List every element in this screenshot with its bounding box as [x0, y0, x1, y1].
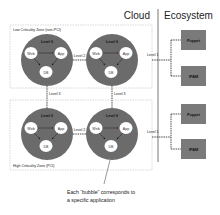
service-puppet: Puppet — [181, 30, 206, 50]
ecosystem-title: Ecosystem — [164, 10, 213, 21]
svg-text:Puppet: Puppet — [187, 113, 201, 117]
svg-text:Web: Web — [92, 127, 99, 131]
app-bubble: Level 0 Web App DB — [86, 108, 138, 160]
architecture-diagram: Cloud Ecosystem Low Criticality Zone (no… — [0, 0, 220, 215]
svg-text:Level 0: Level 0 — [106, 114, 118, 118]
svg-text:IPAM: IPAM — [189, 75, 198, 79]
svg-text:Level 1: Level 1 — [147, 53, 159, 57]
svg-text:IPAM: IPAM — [189, 148, 198, 152]
caption-pointer — [104, 160, 110, 184]
svg-text:DB: DB — [44, 71, 50, 75]
app-bubble: Level 0 Web App DB — [21, 34, 73, 86]
svg-text:App: App — [123, 127, 129, 131]
svg-text:App: App — [58, 52, 64, 56]
svg-text:Puppet: Puppet — [187, 39, 201, 43]
svg-text:Web: Web — [92, 52, 99, 56]
app-bubble: Level 0 Web App DB — [86, 34, 138, 86]
svg-text:Level 3: Level 3 — [114, 92, 126, 96]
svg-text:App: App — [123, 52, 129, 56]
app-bubble: Level 0 Web App DB — [21, 108, 73, 160]
service-ipam: IPAM — [181, 66, 206, 86]
zone-label: Low Criticality Zone (non-PCI) — [13, 28, 61, 32]
svg-text:Web: Web — [27, 127, 34, 131]
high-criticality-zone: High Criticality Zone (PCI) Level 0 Web … — [10, 100, 152, 170]
cloud-title: Cloud — [124, 10, 150, 21]
caption-line-2: a specific application — [67, 197, 115, 203]
service-puppet: Puppet — [181, 104, 206, 124]
zone-label: High Criticality Zone (PCI) — [13, 164, 55, 168]
svg-text:Web: Web — [27, 52, 34, 56]
caption-line-1: Each “bubble” corresponds to — [67, 189, 135, 195]
svg-text:Level 2: Level 2 — [74, 54, 86, 58]
bubble-level-label: Level 0 — [41, 40, 53, 44]
service-ipam: IPAM — [181, 139, 206, 159]
svg-text:Level 3: Level 3 — [49, 92, 61, 96]
svg-text:Level 1: Level 1 — [147, 130, 159, 134]
svg-text:DB: DB — [44, 145, 50, 149]
svg-text:Level 0: Level 0 — [106, 40, 118, 44]
svg-text:App: App — [58, 127, 64, 131]
svg-text:Level 2: Level 2 — [74, 128, 86, 132]
svg-text:DB: DB — [109, 145, 115, 149]
svg-text:Level 0: Level 0 — [41, 114, 53, 118]
svg-text:DB: DB — [109, 71, 115, 75]
low-criticality-zone: Low Criticality Zone (non-PCI) Level 0 W… — [10, 25, 152, 88]
